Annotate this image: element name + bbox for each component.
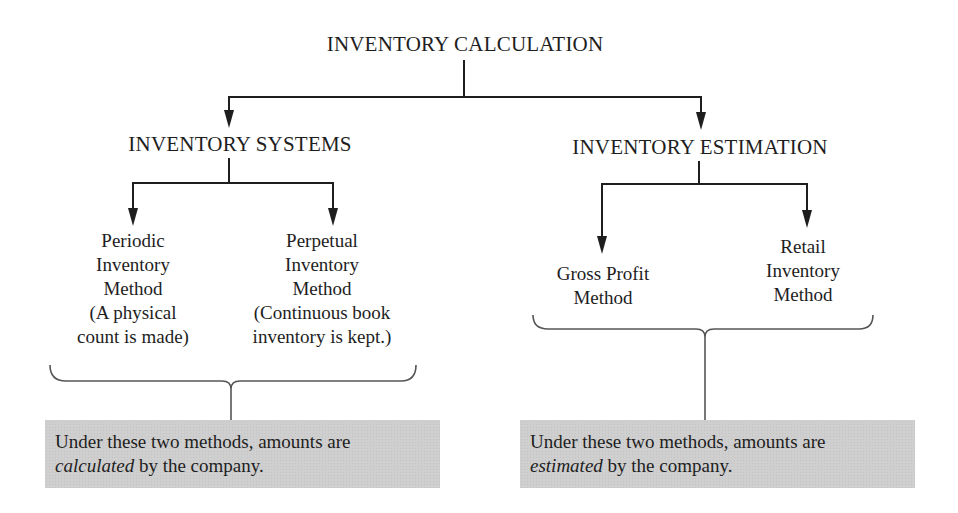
note-calculated: Under these two methods, amounts are cal… xyxy=(45,420,440,488)
node-perpetual-inventory-method: Perpetual Inventory Method (Continuous b… xyxy=(253,229,392,349)
node-line: Method xyxy=(77,277,189,301)
node-line: Perpetual xyxy=(253,229,392,253)
node-line: Method xyxy=(253,277,392,301)
node-gross-profit-method: Gross Profit Method xyxy=(557,262,649,310)
branch-title-inventory-estimation: INVENTORY ESTIMATION xyxy=(572,135,827,160)
note-emphasis: calculated xyxy=(55,455,134,476)
node-line: Retail xyxy=(766,235,840,259)
node-line: Method xyxy=(557,286,649,310)
note-estimated: Under these two methods, amounts are est… xyxy=(520,420,915,488)
node-line: Periodic xyxy=(77,229,189,253)
node-line: (A physical xyxy=(77,301,189,325)
node-line: Method xyxy=(766,283,840,307)
note-suffix: by the company. xyxy=(603,455,733,476)
node-line: Inventory xyxy=(766,259,840,283)
note-line-1: Under these two methods, amounts are xyxy=(530,430,907,454)
branch-title-inventory-systems: INVENTORY SYSTEMS xyxy=(128,132,351,157)
note-line-2: calculated by the company. xyxy=(55,454,432,478)
note-line-1: Under these two methods, amounts are xyxy=(55,430,432,454)
root-title: INVENTORY CALCULATION xyxy=(327,32,604,57)
node-line: Inventory xyxy=(253,253,392,277)
node-line: (Continuous book xyxy=(253,301,392,325)
node-periodic-inventory-method: Periodic Inventory Method (A physical co… xyxy=(77,229,189,349)
node-line: Inventory xyxy=(77,253,189,277)
node-retail-inventory-method: Retail Inventory Method xyxy=(766,235,840,307)
note-line-2: estimated by the company. xyxy=(530,454,907,478)
node-line: Gross Profit xyxy=(557,262,649,286)
note-suffix: by the company. xyxy=(134,455,264,476)
note-emphasis: estimated xyxy=(530,455,603,476)
node-line: inventory is kept.) xyxy=(253,325,392,349)
node-line: count is made) xyxy=(77,325,189,349)
